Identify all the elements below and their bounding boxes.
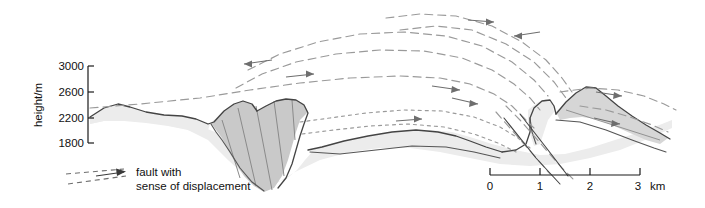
y-axis-tick-label-1800: 1800	[58, 137, 84, 149]
left-hill-body	[90, 104, 210, 136]
displacement-arrow	[286, 71, 314, 78]
scale-label-2: 2	[587, 180, 593, 192]
displacement-arrow	[432, 86, 460, 93]
notch-step-body	[528, 99, 554, 146]
cross-section-canvas: 3000 2600 2200 1800 height/m fault with …	[0, 0, 705, 208]
legend-label-line2: sense of displacement	[136, 180, 251, 192]
scale-label-1: 1	[537, 180, 543, 192]
scale-unit-label: km	[650, 180, 665, 192]
displacement-arrow	[244, 60, 272, 68]
fault-trace	[400, 26, 566, 98]
y-axis-tick-label-2200: 2200	[58, 112, 84, 124]
legend-label-line1: fault with	[136, 166, 181, 178]
y-axis-title: height/m	[32, 83, 44, 127]
displacement-arrow	[452, 98, 478, 107]
fault-trace	[386, 14, 572, 92]
scale-label-3: 3	[635, 180, 641, 192]
fault-trace	[248, 32, 548, 96]
displacement-arrow	[468, 19, 494, 26]
y-axis-tick-label-3000: 3000	[58, 60, 84, 72]
y-axis: 3000 2600 2200 1800 height/m	[32, 60, 94, 149]
displacement-arrow	[396, 116, 422, 123]
legend: fault with sense of displacement	[66, 166, 251, 192]
y-axis-tick-label-2600: 2600	[58, 86, 84, 98]
displacement-arrow	[514, 32, 540, 40]
cross-section-figure: 3000 2600 2200 1800 height/m fault with …	[0, 0, 705, 208]
scale-label-0: 0	[487, 180, 493, 192]
scale-bar-labels: 0 1 2 3 km	[487, 180, 666, 192]
